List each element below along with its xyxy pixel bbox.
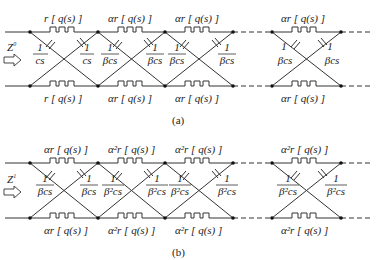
- bottom-rail: [5, 213, 372, 218]
- svg-text:β²cs: β²cs: [147, 185, 166, 197]
- svg-text:1: 1: [327, 40, 333, 52]
- bottom-rail: [5, 81, 372, 86]
- svg-text:1: 1: [285, 172, 291, 184]
- resistor-label-top-3: αr [ q(s) ]: [175, 12, 219, 25]
- ladder-network-diagram: Z0 r [ q(s) ] αr [ q(s) ] αr [ q(s) ] αr…: [0, 0, 376, 260]
- svg-text:1: 1: [177, 172, 183, 184]
- svg-text:β²cs: β²cs: [103, 185, 122, 197]
- input-impedance-label: Z0: [7, 41, 16, 53]
- svg-text:1: 1: [37, 41, 43, 53]
- svg-text:cs: cs: [35, 54, 44, 66]
- svg-text:cs: cs: [82, 54, 91, 66]
- resistor-label-bottom-2: α²r [ q(s) ]: [108, 224, 155, 237]
- svg-text:βcs: βcs: [219, 54, 235, 66]
- resistor-label-top-2: αr [ q(s) ]: [108, 12, 152, 25]
- resistor-label-bottom-1: r [ q(s) ]: [44, 92, 82, 105]
- panel-a-caption: (a): [172, 114, 185, 127]
- svg-text:βcs: βcs: [37, 185, 53, 197]
- svg-text:βcs: βcs: [169, 54, 185, 66]
- svg-text:βcs: βcs: [324, 54, 340, 66]
- resistor-label-top-4: α²r [ q(s) ]: [281, 143, 328, 156]
- svg-text:1: 1: [281, 40, 287, 52]
- resistor-label-top-4: αr [ q(s) ]: [281, 12, 325, 25]
- svg-text:β²cs: β²cs: [217, 185, 236, 197]
- svg-text:βcs: βcs: [147, 54, 163, 66]
- panel-b: Z1 αr [ q(s) ] α²r [ q(s) ] α²r [ q(s) ]…: [4, 143, 372, 259]
- input-arrow-icon: [4, 54, 21, 66]
- svg-text:βcs: βcs: [277, 54, 293, 66]
- svg-text:β²cs: β²cs: [170, 185, 189, 197]
- resistor-label-bottom-1: αr [ q(s) ]: [44, 224, 88, 237]
- resistor-label-bottom-2: αr [ q(s) ]: [108, 92, 152, 105]
- panel-b-caption: (b): [172, 246, 185, 259]
- svg-text:β²cs: β²cs: [278, 185, 297, 197]
- svg-text:1: 1: [110, 172, 116, 184]
- svg-text:1: 1: [84, 41, 90, 53]
- top-rail: [5, 158, 372, 163]
- resistor-label-top-1: αr [ q(s) ]: [44, 143, 88, 156]
- resistor-label-bottom-3: αr [ q(s) ]: [175, 92, 219, 105]
- panel-a: Z0 r [ q(s) ] αr [ q(s) ] αr [ q(s) ] αr…: [4, 12, 372, 127]
- resistor-label-bottom-3: α²r [ q(s) ]: [175, 224, 222, 237]
- input-impedance-label: Z1: [7, 173, 16, 185]
- resistor-label-top-1: r [ q(s) ]: [44, 12, 82, 25]
- nodes: [28, 30, 343, 88]
- resistor-label-bottom-4: αr [ q(s) ]: [281, 92, 325, 105]
- svg-text:1: 1: [86, 172, 92, 184]
- svg-text:1: 1: [174, 41, 180, 53]
- svg-text:βcs: βcs: [81, 185, 97, 197]
- svg-text:β²cs: β²cs: [326, 185, 345, 197]
- svg-text:1: 1: [154, 172, 160, 184]
- svg-text:1: 1: [224, 41, 230, 53]
- svg-text:1: 1: [224, 172, 230, 184]
- resistor-label-bottom-4: α²r [ q(s) ]: [281, 224, 328, 237]
- svg-text:1: 1: [107, 41, 113, 53]
- svg-text:1: 1: [152, 41, 158, 53]
- resistor-label-top-2: α²r [ q(s) ]: [108, 143, 155, 156]
- svg-text:1: 1: [333, 172, 339, 184]
- resistor-label-top-3: α²r [ q(s) ]: [175, 143, 222, 156]
- top-rail: [5, 27, 372, 32]
- input-arrow-icon: [4, 186, 21, 198]
- svg-text:βcs: βcs: [102, 54, 118, 66]
- svg-text:1: 1: [42, 172, 48, 184]
